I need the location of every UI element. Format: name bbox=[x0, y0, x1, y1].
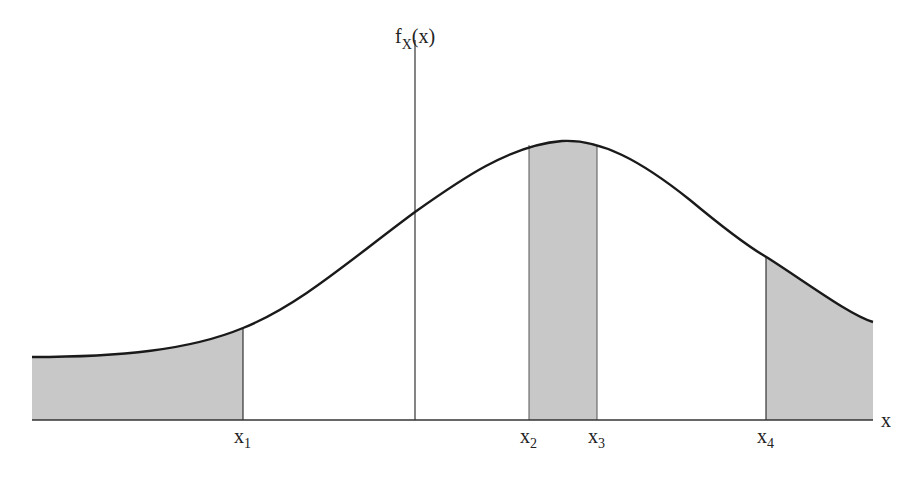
tick-label-x1: x1 bbox=[234, 425, 251, 451]
shaded-region-right-tail bbox=[766, 100, 873, 420]
shaded-regions bbox=[32, 100, 873, 420]
tick-label-x2: x2 bbox=[520, 425, 537, 451]
shaded-region-left-tail bbox=[32, 100, 243, 420]
tick-label-x3: x3 bbox=[588, 425, 605, 451]
x-axis-label: x bbox=[881, 409, 891, 431]
tick-label-x4: x4 bbox=[757, 425, 774, 451]
shaded-region-center bbox=[529, 100, 597, 420]
density-diagram: fX(x) x x1 x2 x3 x4 bbox=[0, 0, 914, 477]
density-curve bbox=[32, 141, 873, 357]
